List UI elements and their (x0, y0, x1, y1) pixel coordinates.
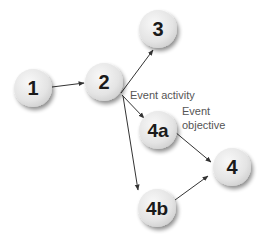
node-4a-label: 4a (147, 120, 169, 141)
node-1-label: 1 (27, 77, 38, 99)
edge-2-to-4b (123, 96, 138, 190)
node-4-label: 4 (226, 156, 238, 178)
node-2-label: 2 (98, 71, 109, 93)
diagram-canvas: 1 2 3 4a 4b 4 Event activity Event objec… (0, 0, 263, 236)
event-activity-label: Event activity (130, 89, 195, 101)
edge-1-to-2 (52, 83, 84, 87)
edge-4a-to-4 (175, 132, 211, 162)
edge-4b-to-4 (175, 176, 208, 200)
node-3-label: 3 (152, 18, 163, 40)
event-objective-label-line1: Event (182, 105, 210, 117)
edge-2-to-3 (121, 50, 153, 93)
node-4b-label: 4b (146, 198, 168, 219)
event-objective-label-line2: objective (182, 119, 225, 131)
